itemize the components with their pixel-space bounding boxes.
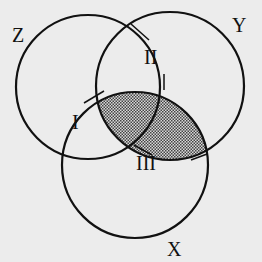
set-z-circle: [16, 15, 160, 159]
region-label-i: I: [72, 111, 79, 133]
set-label-x: X: [167, 238, 182, 260]
region-label-iii: III: [136, 152, 156, 174]
region-label-ii: II: [144, 46, 157, 68]
set-label-y: Y: [232, 14, 246, 36]
venn-diagram: Z Y X I II III: [0, 0, 262, 262]
venn-svg: Z Y X I II III: [0, 0, 262, 262]
set-label-z: Z: [12, 24, 24, 46]
